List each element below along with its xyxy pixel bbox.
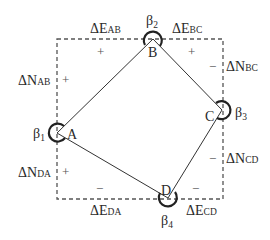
vertex-label-c: C: [205, 109, 214, 124]
sign-delta-n-bc: −: [209, 59, 216, 74]
label-delta-n-da: ΔNDA: [18, 165, 51, 180]
sign-delta-e-bc: +: [188, 44, 195, 59]
angle-arc-beta2-icon: [144, 32, 162, 46]
sign-delta-e-da: −: [96, 181, 103, 196]
label-delta-e-ab: ΔEAB: [90, 21, 121, 36]
edge-da: [57, 133, 168, 198]
sign-delta-e-cd: −: [192, 181, 199, 196]
label-delta-e-bc: ΔEBC: [172, 21, 202, 36]
traverse-diagram: A B C D β1 β2 β3 β4 ΔEAB ΔEBC ΔNAB ΔNBC: [0, 0, 270, 240]
angle-label-beta2: β2: [146, 13, 158, 30]
label-delta-n-bc: ΔNBC: [226, 59, 258, 74]
label-delta-e-da: ΔEDA: [90, 203, 121, 218]
vertex-label-b: B: [148, 45, 157, 60]
vertex-label-d: D: [161, 183, 171, 198]
label-delta-e-cd: ΔECD: [186, 203, 217, 218]
angle-label-beta3: β3: [235, 105, 247, 122]
sign-delta-n-da: +: [62, 164, 69, 179]
label-delta-n-cd: ΔNCD: [226, 151, 258, 166]
vertex-label-a: A: [67, 127, 78, 142]
sign-delta-n-cd: −: [209, 151, 216, 166]
sign-delta-n-ab: +: [62, 72, 69, 87]
angle-label-beta1: β1: [33, 126, 45, 143]
dashed-bounding-box: [57, 39, 223, 199]
edge-ab: [57, 39, 153, 133]
angle-label-beta4: β4: [161, 213, 173, 230]
label-delta-n-ab: ΔNAB: [18, 73, 50, 88]
sign-delta-e-ab: +: [97, 44, 104, 59]
